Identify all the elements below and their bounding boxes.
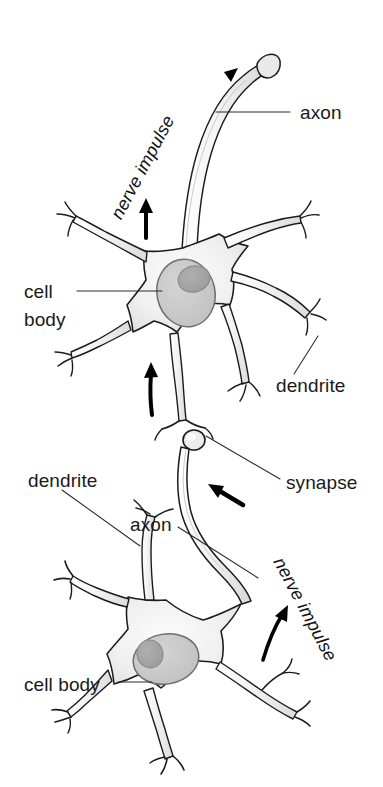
upper-neuron-axon-terminal <box>257 54 280 78</box>
arrow-upper-lower <box>144 362 158 415</box>
upper-neuron-dendrite-upper-right <box>224 201 319 248</box>
lower-neuron-dendrite-bottom <box>144 688 184 774</box>
label-dendrite-right: dendrite <box>276 375 345 396</box>
label-nerve-impulse-bottom: nerve impulse <box>270 554 341 665</box>
lower-neuron-dendrite-upper-left <box>54 561 129 607</box>
label-axon-bottom: axon <box>130 514 172 535</box>
upper-neuron-dendrite-bottom <box>155 333 213 440</box>
upper-neuron-dendrite-upper-left <box>57 202 147 262</box>
leader-dendrite-right <box>294 336 318 374</box>
lower-neuron-dendrite-lower-right <box>216 659 310 726</box>
leader-dendrite-left <box>62 490 140 546</box>
upper-neuron-dendrite-right <box>231 272 326 335</box>
label-axon-top: axon <box>300 102 342 123</box>
arrow-synapse <box>208 484 243 505</box>
label-dendrite-left: dendrite <box>28 470 97 491</box>
arrow-lower-axon <box>263 605 288 660</box>
upper-neuron-dendrite-lower-left <box>55 321 131 376</box>
impulse-arrows <box>139 68 288 660</box>
leader-synapse <box>206 436 280 479</box>
lower-neuron-axon <box>178 447 251 604</box>
label-cell-body-top-line1: cell <box>24 281 53 302</box>
label-cell-body-top-line2: body <box>24 309 66 330</box>
neuron-diagram: axon nerve impulse cell body dendrite sy… <box>0 0 383 787</box>
lower-neuron <box>52 447 310 774</box>
arrow-upper-left <box>139 198 153 238</box>
synapse-structure <box>183 430 205 450</box>
neuron-diagram-canvas: axon nerve impulse cell body dendrite sy… <box>0 0 383 787</box>
label-cell-body-bottom: cell body <box>24 674 100 695</box>
upper-neuron-axon <box>182 64 268 252</box>
upper-neuron-dendrite-lower-right <box>221 304 260 401</box>
label-synapse: synapse <box>286 472 357 493</box>
